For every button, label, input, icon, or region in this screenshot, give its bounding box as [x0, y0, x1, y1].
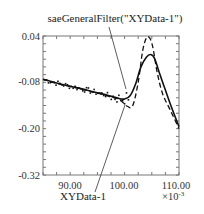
y-tick-label: -0.20 [18, 123, 40, 134]
annotation-raw-label: XYData-1 [60, 190, 106, 202]
x-tick-label: 100.00 [110, 180, 139, 191]
annotation-filter-label: saeGeneralFilter("XYData-1") [48, 12, 183, 25]
annotation-leader-bottom [95, 105, 125, 192]
raw-curve [43, 36, 179, 128]
y-tick-label: 0.04 [22, 31, 41, 42]
plot-frame [43, 36, 179, 175]
filtered-curve [43, 55, 179, 127]
x-multiplier-label: ×10-3 [162, 190, 185, 202]
axis-ticks [43, 36, 179, 175]
xy-plot: 0.04 -0.08 -0.20 -0.32 90.00 100.00 110.… [0, 0, 204, 214]
plot-curves [43, 36, 179, 128]
x-tick-label: 110.00 [162, 180, 191, 191]
y-tick-label: -0.08 [18, 76, 40, 87]
y-tick-label: -0.32 [18, 170, 40, 181]
